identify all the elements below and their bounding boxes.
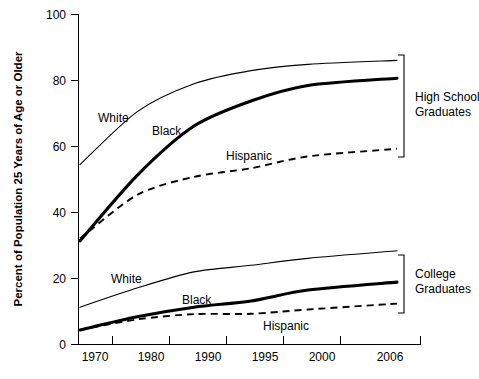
college-hispanic-line [80,304,397,330]
y-tick-label-60: 60 [53,140,67,154]
label-college-black: Black [182,293,212,307]
high-school-group: High School Graduates [398,55,479,157]
y-axis-title: Percent of Population 25 Years of Age or… [12,51,24,307]
y-axis: 0 20 40 60 80 100 [46,8,79,352]
label-hs-hispanic: Hispanic [226,149,272,163]
high-school-group-label-line2: Graduates [415,105,471,119]
y-tick-label-40: 40 [53,206,67,220]
series-annotations: White Black Hispanic White Black Hispani… [98,111,309,333]
x-tick-label-2006: 2006 [377,350,404,364]
series-lines [80,60,397,330]
high-school-bracket [398,55,404,157]
x-tick-label-1990: 1990 [195,350,222,364]
label-hs-white: White [98,111,129,125]
y-tick-label-80: 80 [53,74,67,88]
label-college-hispanic: Hispanic [263,319,309,333]
x-tick-label-1980: 1980 [138,350,165,364]
x-tick-label-1970: 1970 [82,350,109,364]
y-tick-label-100: 100 [46,8,66,22]
label-college-white: White [111,272,142,286]
label-hs-black: Black [152,124,182,138]
college-bracket [398,255,404,313]
y-tick-label-20: 20 [53,272,67,286]
x-axis: 1970 1980 1990 1995 2000 2006 [79,336,422,364]
x-tick-label-1995: 1995 [252,350,279,364]
high-school-group-label-line1: High School [415,90,479,104]
education-attainment-line-chart: 0 20 40 60 80 100 1970 1980 1990 1995 20… [0,0,479,379]
college-group-label-line1: College [415,267,456,281]
college-group: College Graduates [398,255,471,313]
x-tick-label-2000: 2000 [309,350,336,364]
college-group-label-line2: Graduates [415,282,471,296]
y-tick-label-0: 0 [59,338,66,352]
chart-container: 0 20 40 60 80 100 1970 1980 1990 1995 20… [0,0,479,379]
